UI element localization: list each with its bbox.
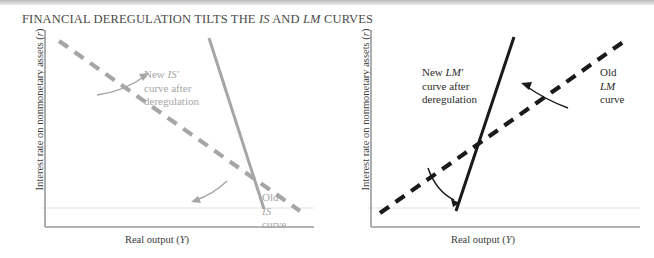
figure-title: FINANCIAL DEREGULATION TILTS THE IS AND … — [22, 12, 373, 27]
is-x-label-suffix: ) — [186, 234, 190, 245]
is-old-label-line3: curve — [262, 218, 286, 230]
lm-old-label-line2-var: LM — [600, 80, 615, 92]
is-panel-x-axis-label: Real output (Y) — [12, 234, 302, 245]
lm-arrow-upper — [526, 86, 568, 108]
lm-x-label-suffix: ) — [512, 234, 516, 245]
is-old-label-line1: Old — [262, 191, 279, 203]
top-divider-bar — [0, 0, 654, 5]
is-new-label-line2: curve after — [144, 82, 191, 94]
is-new-curve-label: New IS'curve afterderegulation — [144, 68, 199, 109]
is-x-label-prefix: Real output ( — [125, 234, 180, 245]
figure-title-prefix: FINANCIAL DEREGULATION TILTS THE — [22, 12, 259, 26]
is-new-curve — [209, 38, 264, 209]
lm-panel: Interest rate on nonmonetary assets (r) … — [338, 28, 650, 254]
is-new-label-line3: deregulation — [144, 95, 199, 107]
is-old-curve-label: OldIScurve — [262, 191, 286, 232]
is-new-label-line1-var: IS' — [168, 68, 180, 80]
lm-new-label-line1-prefix: New — [422, 66, 446, 78]
lm-plot-area — [368, 28, 640, 232]
lm-new-label-line2: curve after — [422, 80, 469, 92]
is-panel: Interest rate on nonmonetary assets (r) … — [12, 28, 324, 254]
lm-panel-x-axis-label: Real output (Y) — [338, 234, 628, 245]
lm-old-label-line3: curve — [600, 93, 624, 105]
lm-new-label-line3: deregulation — [422, 93, 477, 105]
figure-title-lm: LM — [303, 12, 321, 26]
is-old-label-line2-var: IS — [262, 205, 271, 217]
lm-x-label-prefix: Real output ( — [451, 234, 506, 245]
lm-old-curve-label: OldLMcurve — [600, 66, 624, 107]
lm-old-label-line1: Old — [600, 66, 617, 78]
lm-arrow-lower — [428, 168, 454, 200]
is-old-curve — [59, 41, 300, 211]
is-new-label-line1-prefix: New — [144, 68, 168, 80]
is-arrow-lower-head — [191, 196, 201, 203]
lm-new-curve-label: New LM'curve afterderegulation — [422, 66, 477, 107]
figure-title-is: IS — [259, 12, 270, 26]
is-arrow-lower — [196, 181, 227, 200]
figure-title-mid: AND — [270, 12, 303, 26]
lm-new-label-line1-var: LM' — [446, 66, 464, 78]
figure-container: FINANCIAL DEREGULATION TILTS THE IS AND … — [0, 0, 654, 258]
